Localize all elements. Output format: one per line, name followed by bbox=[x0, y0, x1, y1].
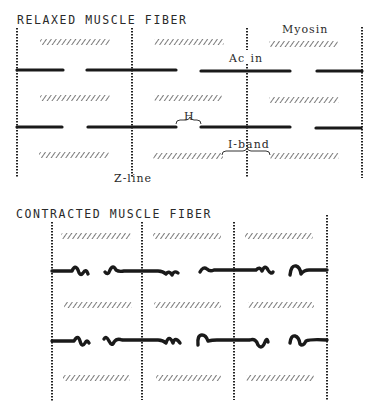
contracted-myosin-filaments bbox=[61, 233, 314, 381]
sarcomere-diagram bbox=[0, 0, 373, 415]
myosin-filament bbox=[154, 302, 221, 308]
myosin-filament bbox=[40, 39, 110, 45]
myosin-filament bbox=[61, 233, 131, 239]
myosin-filament bbox=[154, 39, 224, 45]
myosin-filament bbox=[153, 233, 221, 239]
myosin-filament bbox=[154, 95, 222, 101]
myosin-filament bbox=[269, 97, 339, 103]
myosin-filament bbox=[270, 153, 339, 159]
myosin-filament bbox=[39, 152, 109, 158]
myosin-filament bbox=[153, 153, 223, 159]
h-zone-bracket bbox=[176, 117, 201, 124]
myosin-filament bbox=[64, 302, 132, 308]
actin-filament-wavy bbox=[198, 335, 268, 347]
actin-filament-wavy bbox=[52, 267, 88, 274]
relaxed-myosin-filaments bbox=[39, 39, 339, 159]
myosin-filament bbox=[248, 302, 314, 308]
actin-filament-wavy bbox=[200, 267, 273, 273]
myosin-filament bbox=[156, 375, 221, 381]
actin-filament-wavy bbox=[52, 338, 89, 346]
myosin-filament bbox=[245, 233, 313, 239]
myosin-filament bbox=[63, 375, 130, 381]
myosin-filament bbox=[269, 41, 338, 47]
myosin-filament bbox=[246, 375, 314, 381]
myosin-filament bbox=[40, 95, 110, 101]
actin-filament-wavy bbox=[290, 266, 327, 275]
actin-filament-wavy bbox=[290, 336, 327, 345]
